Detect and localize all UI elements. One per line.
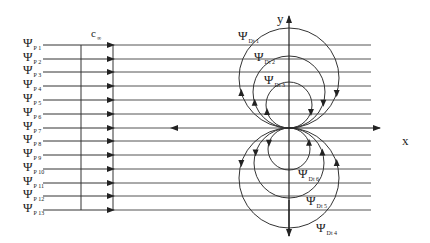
- direction-arrow-icon: [238, 160, 244, 167]
- doublet-label-3: ΨDt 3: [264, 73, 285, 88]
- direction-arrow-icon: [334, 90, 340, 97]
- direction-arrow-icon: [319, 149, 325, 156]
- doublet-label-1: ΨDt 1: [238, 29, 259, 44]
- doublet-label-4: ΨDt 4: [316, 221, 337, 236]
- doublet-label-5: ΨDt 5: [306, 194, 327, 209]
- direction-arrow-icon: [334, 159, 340, 166]
- direction-arrow-icon: [266, 140, 272, 147]
- direction-arrow-icon: [238, 89, 244, 96]
- streamline-label-p13: ΨP 13: [23, 201, 44, 216]
- direction-arrow-icon: [320, 100, 326, 107]
- x-axis-left-arrow-icon: [170, 125, 178, 131]
- doublet-in-uniform-flow-diagram: [0, 0, 430, 243]
- doublet-label-6: ΨDt 6: [298, 167, 319, 182]
- doublet-label-2: ΨDt 2: [254, 50, 275, 65]
- y-axis-label: y: [277, 12, 284, 25]
- direction-arrow-icon: [306, 139, 312, 146]
- direction-arrow-icon: [308, 109, 314, 116]
- x-axis-label: x: [402, 134, 409, 147]
- direction-arrow-icon: [264, 108, 270, 115]
- velocity-label: c∞: [91, 28, 101, 41]
